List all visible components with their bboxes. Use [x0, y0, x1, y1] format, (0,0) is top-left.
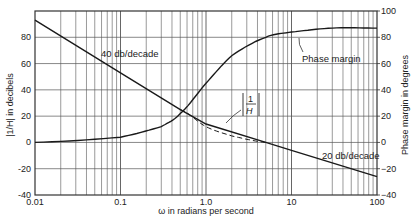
x-tick: 0.1 [114, 197, 127, 207]
y-axis-left-label: |1/H| in decibels [5, 73, 15, 137]
y-tick-right: 60 [381, 59, 391, 69]
inv-h-den: H [246, 106, 253, 116]
y-tick-left: 20 [21, 111, 31, 121]
inv-h-num: 1 [248, 94, 253, 104]
phase-margin-leader [299, 38, 303, 52]
x-tick: 0.01 [26, 197, 44, 207]
y-axis-right-label: Phase margin in degrees [400, 54, 410, 155]
grid [35, 11, 377, 195]
y-tick-right: 0 [381, 137, 386, 147]
inv-h-annotation: 1 H [226, 93, 259, 123]
y-tick-left: 80 [21, 32, 31, 42]
y-tick-right: 40 [381, 85, 391, 95]
x-tick: 100 [369, 197, 384, 207]
slope-40-label: 40 db/decade [101, 48, 159, 59]
bode-chart: -40-20020406080−40−200204060801000.010.1… [0, 0, 415, 221]
y-tick-right: 100 [381, 6, 396, 16]
y-tick-right: 80 [381, 32, 391, 42]
x-axis-label: ω in radians per second [158, 206, 254, 216]
y-tick-left: -20 [18, 164, 31, 174]
curve--1-h-actual [180, 110, 265, 143]
y-tick-left: 0 [26, 137, 31, 147]
y-tick-left: 40 [21, 85, 31, 95]
phase-margin-label: Phase margin [302, 53, 361, 64]
y-tick-left: 60 [21, 59, 31, 69]
y-tick-right: 20 [381, 111, 391, 121]
tick-labels: -40-20020406080−40−200204060801000.010.1… [18, 6, 396, 207]
x-tick: 10 [286, 197, 296, 207]
slope-20-label: 20 db/decade [322, 150, 380, 161]
y-tick-right: −20 [381, 164, 396, 174]
